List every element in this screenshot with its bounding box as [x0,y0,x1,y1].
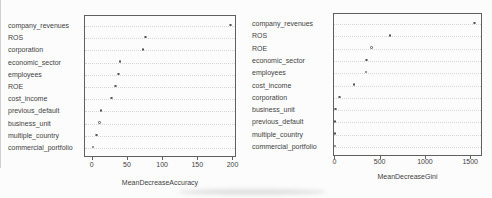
category-label: previous_default [252,118,303,126]
category-label: ROS [252,32,267,40]
x-tick-label: 500 [374,158,386,166]
scan-artifact [178,189,326,195]
gridline [334,73,481,74]
category-label: commercial_portfolio [252,143,317,151]
data-point [389,34,392,37]
variable-importance-figure: MeanDecreaseAccuracy company_revenuesROS… [0,0,492,198]
gridline [334,86,481,87]
category-label: company_revenues [252,20,313,28]
x-tick-label: 0 [332,158,336,166]
gridline [334,49,481,50]
gridline [334,36,481,37]
gridline [334,61,481,62]
x-axis-title: MeanDecreaseGini [378,173,438,181]
x-tick-label: 1000 [417,158,433,166]
gridline [334,24,481,25]
category-label: employees [252,69,286,77]
data-point [334,132,337,135]
gridline [334,135,481,136]
gridline [334,147,481,148]
category-label: business_unit [252,106,295,114]
category-label: multiple_country [252,131,303,139]
category-label: cost_income [252,82,291,90]
data-point [365,59,368,62]
gridline [334,98,481,99]
gridline [334,122,481,123]
x-tick-label: 1500 [462,158,478,166]
category-label: corporation [252,94,287,102]
category-label: economic_sector [252,57,305,65]
category-label: ROE [252,45,267,53]
data-point [370,46,373,49]
plot-box [333,13,482,156]
data-point [338,96,341,99]
mean-decrease-gini-chart: MeanDecreaseGini company_revenuesROSROEe… [0,0,492,198]
gridline [334,110,481,111]
